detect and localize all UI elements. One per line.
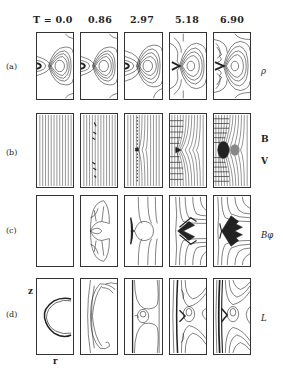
bphi-contour-plot [170, 196, 206, 266]
bphi-contour-plot [81, 196, 117, 266]
density-contour-plot [170, 33, 206, 99]
density-contour-plot [37, 33, 73, 99]
density-contour-plot [214, 33, 250, 99]
var-label-V: V [261, 156, 268, 166]
panel-b-t1 [80, 113, 118, 188]
row-label-b: (b) [6, 148, 17, 157]
density-contour-plot [81, 33, 117, 99]
axis-label-r: r [53, 356, 57, 366]
panel-d-t1 [80, 278, 118, 355]
panel-c-t2 [124, 195, 163, 267]
panel-b-t4 [213, 113, 251, 188]
panel-b-t2 [124, 113, 163, 188]
row-label-a: (a) [6, 62, 17, 71]
panel-d-t0 [36, 278, 74, 355]
l-contour-plot [214, 279, 250, 354]
bphi-contour-plot [37, 196, 73, 266]
time-label-1: 0.86 [88, 14, 112, 25]
row-label-c: (c) [6, 226, 17, 235]
time-label-4: 6.90 [220, 14, 244, 25]
l-contour-plot [125, 279, 162, 354]
row-label-d: (d) [6, 310, 17, 319]
panel-c-t0 [36, 195, 74, 267]
axis-label-z: z [28, 286, 33, 296]
panel-c-t4 [213, 195, 251, 267]
panel-b-t0 [36, 113, 74, 188]
var-label-Bphi: Bφ [261, 230, 273, 240]
time-label-2: 2.97 [130, 14, 154, 25]
var-label-L: L [261, 313, 267, 323]
field-line-plot [170, 114, 206, 187]
panel-c-t1 [80, 195, 118, 267]
bphi-contour-plot [125, 196, 162, 266]
l-contour-plot [37, 279, 73, 354]
field-line-plot [214, 114, 250, 187]
panel-a-t2 [124, 32, 163, 100]
field-line-plot [37, 114, 73, 187]
time-label-0: T = 0.0 [33, 14, 73, 25]
density-contour-plot [125, 33, 162, 99]
panel-d-t3 [169, 278, 207, 355]
time-label-3: 5.18 [175, 14, 199, 25]
panel-d-t4 [213, 278, 251, 355]
bphi-contour-plot [214, 196, 250, 266]
panel-a-t4 [213, 32, 251, 100]
panel-b-t3 [169, 113, 207, 188]
panel-a-t3 [169, 32, 207, 100]
l-contour-plot [170, 279, 206, 354]
panel-a-t0 [36, 32, 74, 100]
l-contour-plot [81, 279, 117, 354]
panel-c-t3 [169, 195, 207, 267]
var-label-B: B [261, 134, 269, 144]
panel-d-t2 [124, 278, 163, 355]
panel-a-t1 [80, 32, 118, 100]
field-line-plot [125, 114, 162, 187]
var-label-rho: ρ [261, 66, 266, 76]
field-line-plot [81, 114, 117, 187]
